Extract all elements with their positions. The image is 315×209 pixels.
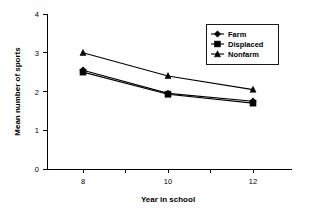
- x-axis-title: Year in school: [141, 195, 195, 204]
- chart-figure: 0 1 2 3 4 8 10 12 Year in school Mean nu…: [0, 0, 315, 209]
- chart-legend: Farm Displaced Nonfarm: [206, 24, 278, 64]
- x-tick-label-8: 8: [81, 177, 85, 186]
- y-tick-label-0: 0: [35, 165, 39, 174]
- y-tick-label-3: 3: [35, 49, 39, 58]
- y-tick-marks: [43, 14, 47, 169]
- x-tick-label-10: 10: [164, 177, 172, 186]
- series-displaced-point-10: [165, 91, 171, 97]
- x-tick-labels: 8 10 12: [81, 177, 257, 186]
- series-displaced-point-8: [80, 69, 86, 75]
- x-tick-marks: [83, 169, 253, 173]
- legend-label-nonfarm: Nonfarm: [228, 50, 259, 59]
- series-displaced-point-12: [250, 100, 256, 106]
- series-nonfarm-point-8: [80, 49, 86, 55]
- y-axis-title: Mean number of sports: [13, 47, 22, 136]
- y-tick-label-4: 4: [35, 10, 39, 19]
- legend-label-displaced: Displaced: [228, 40, 264, 49]
- y-tick-label-2: 2: [35, 88, 39, 97]
- line-chart: 0 1 2 3 4 8 10 12 Year in school Mean nu…: [0, 0, 315, 209]
- legend-marker-square-icon: [215, 41, 221, 47]
- x-tick-label-12: 12: [249, 177, 257, 186]
- y-tick-labels: 0 1 2 3 4: [35, 10, 39, 174]
- legend-label-farm: Farm: [228, 30, 247, 39]
- y-tick-label-1: 1: [35, 126, 39, 135]
